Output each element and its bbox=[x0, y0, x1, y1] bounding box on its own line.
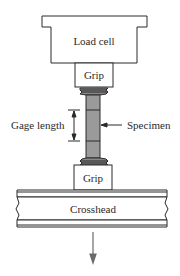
bottom-threads bbox=[80, 158, 108, 165]
top-grip-label: Grip bbox=[84, 69, 105, 81]
bottom-grip: Grip bbox=[74, 165, 112, 190]
bottom-grip-label: Grip bbox=[83, 172, 104, 184]
arrow-down-icon bbox=[72, 134, 76, 140]
top-threads bbox=[80, 88, 108, 95]
arrow-left-icon bbox=[101, 123, 107, 127]
top-grip: Grip bbox=[75, 63, 113, 87]
arrow-down-icon bbox=[90, 254, 96, 263]
load-cell-label: Load cell bbox=[73, 35, 114, 47]
specimen bbox=[86, 95, 100, 158]
arrow-up-icon bbox=[72, 111, 76, 117]
load-direction-arrow bbox=[90, 232, 96, 263]
load-cell: Load cell bbox=[42, 16, 147, 63]
gage-length-dimension bbox=[68, 110, 80, 141]
crosshead-label: Crosshead bbox=[70, 203, 116, 215]
specimen-label: Specimen bbox=[127, 119, 171, 131]
gage-length-label: Gage length bbox=[11, 119, 65, 131]
tensile-test-diagram: Load cell Grip Grip Gage length bbox=[0, 0, 180, 276]
specimen-pointer bbox=[101, 123, 122, 127]
